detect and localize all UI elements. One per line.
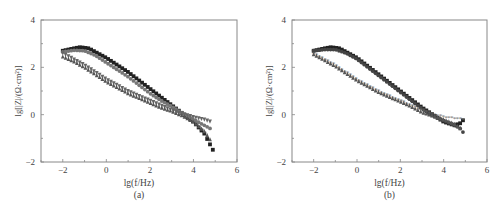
data-point: [202, 118, 206, 122]
x-axis-label: lg(f/Hz): [374, 178, 405, 189]
y-tick-label: 4: [282, 15, 287, 25]
y-tick-label: 0: [282, 110, 287, 120]
y-axis-label: lg[|Z|/(Ω·cm²)]: [264, 65, 274, 116]
data-point: [163, 107, 167, 111]
chart-panel-b: −20246−2024lg(f/Hz)(b)lg[|Z|/(Ω·cm²)]***…: [250, 0, 499, 215]
series-series-3: [61, 51, 212, 124]
data-point: *: [461, 116, 465, 124]
data-point: [208, 126, 212, 130]
series-series-3: ****************************************…: [312, 50, 465, 124]
x-axis-label: lg(f/Hz): [124, 178, 155, 189]
x-tick-label: 4: [191, 165, 196, 175]
data-point: [205, 137, 209, 141]
data-point: [61, 54, 65, 58]
x-tick-label: 2: [398, 165, 403, 175]
panel-label: (a): [134, 190, 145, 201]
y-tick-label: 4: [31, 15, 36, 25]
data-point: [208, 120, 212, 124]
y-tick-label: 0: [31, 110, 36, 120]
data-point: [208, 142, 212, 146]
y-tick-label: −2: [276, 157, 286, 167]
y-tick-label: −2: [25, 157, 35, 167]
series-series-4: [61, 54, 212, 141]
x-tick-label: −2: [58, 165, 68, 175]
plot-a: −20246−2024lg(f/Hz)(a)lg[|Z|/(Ω·cm²)]: [0, 0, 250, 215]
plot-frame: [292, 20, 487, 162]
panel-label: (b): [384, 190, 395, 201]
y-tick-label: 2: [31, 62, 36, 72]
plot-b: −20246−2024lg(f/Hz)(b)lg[|Z|/(Ω·cm²)]***…: [250, 0, 499, 215]
data-point: [461, 130, 465, 134]
data-point: [211, 148, 215, 152]
x-tick-label: −2: [309, 165, 319, 175]
x-tick-label: 6: [235, 165, 240, 175]
data-point: [205, 119, 209, 123]
x-tick-label: 4: [441, 165, 446, 175]
x-tick-label: 2: [148, 165, 153, 175]
x-tick-label: 6: [485, 165, 490, 175]
chart-panel-a: −20246−2024lg(f/Hz)(a)lg[|Z|/(Ω·cm²)]: [0, 0, 250, 215]
y-axis-label: lg[|Z|/(Ω·cm²)]: [13, 65, 23, 116]
series-series-2: [61, 48, 212, 130]
data-point: [160, 106, 164, 110]
x-tick-label: 0: [355, 165, 360, 175]
y-tick-label: 2: [282, 62, 287, 72]
x-tick-label: 0: [104, 165, 109, 175]
